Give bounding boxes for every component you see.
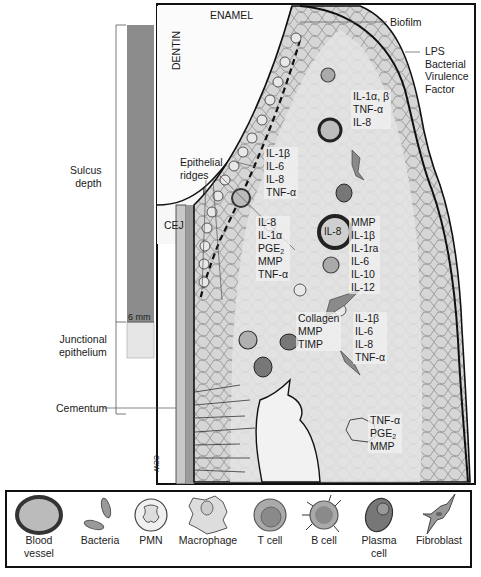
cej-label: CEJ xyxy=(164,219,184,232)
legend-item-macrophage: Macrophage xyxy=(175,492,241,566)
t-cell-icon xyxy=(252,497,288,533)
blood-vessel-il8-label: IL-8 xyxy=(324,226,341,239)
fibroblast-icon xyxy=(419,492,459,536)
pmn-icon xyxy=(133,497,169,533)
sulcus-depth-label: Sulcus depth xyxy=(70,164,102,189)
legend-item-plasma-cell: Plasma cell xyxy=(355,492,403,566)
b-cell-icon xyxy=(299,494,349,536)
lps-label: LPS Bacterial Virulence Factor xyxy=(425,45,469,95)
diagram-artwork xyxy=(0,0,481,490)
enamel-label: ENAMEL xyxy=(210,9,253,22)
cytokine-group-upper-mid: IL-1βIL-6IL-8TNF-α xyxy=(264,147,298,199)
legend-item-fibroblast: Fibroblast xyxy=(409,492,469,566)
periodontal-diagram: ENAMEL DENTIN CEJ Biofilm LPS Bacterial … xyxy=(0,0,481,490)
macrophage-icon xyxy=(185,494,231,536)
legend-item-bacteria: Bacteria xyxy=(73,492,127,566)
artist-credit: CCW xyxy=(150,455,163,472)
bacteria-icon xyxy=(82,495,118,535)
blood-vessel-icon xyxy=(14,495,64,535)
cytokine-group-mid-left: IL-8IL-1αPGE2MMPTNF-α xyxy=(256,216,290,281)
legend-item-pmn: PMN xyxy=(131,492,171,566)
legend-item-t-cell: T cell xyxy=(247,492,293,566)
cytokine-group-lower-left: CollagenMMPTIMP xyxy=(296,312,341,351)
cytokine-group-mid-right: MMPIL-1βIL-1raIL-6IL-10IL-12 xyxy=(349,216,380,294)
plasma-cell-icon xyxy=(363,495,395,535)
junctional-epithelium-label: Junctional epithelium xyxy=(59,333,107,358)
epithelial-ridges-label: Epithelial ridges xyxy=(180,156,223,181)
scale-mark-label: 6 mm xyxy=(128,312,151,322)
legend-item-blood-vessel: Blood vessel xyxy=(11,492,67,566)
legend-item-b-cell: B cell xyxy=(299,492,349,566)
sulcus-scale-bar xyxy=(116,25,154,414)
cytokine-group-lower-right: IL-1βIL-6IL-8TNF-α xyxy=(353,312,387,364)
biofilm-label: Biofilm xyxy=(390,16,422,29)
cytokine-group-bottom: TNF-αPGE2MMP xyxy=(368,414,402,453)
cementum-label: Cementum xyxy=(56,402,107,415)
cell-type-legend: Blood vessel Bacteria PMN Macrophage T c… xyxy=(5,490,472,568)
cytokine-group-top-right: IL-1α, βTNF-αIL-8 xyxy=(351,90,391,129)
dentin-label: DENTIN xyxy=(170,31,183,70)
